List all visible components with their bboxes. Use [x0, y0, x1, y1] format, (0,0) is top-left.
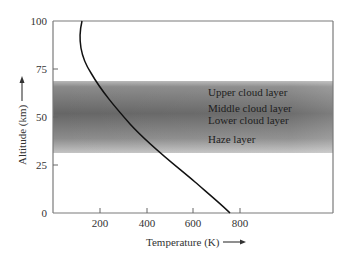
y-tick-label: 75 — [36, 63, 48, 75]
middle-cloud-layer-label: Middle cloud layer — [208, 102, 292, 114]
y-axis-label: Altitude (km) — [16, 104, 29, 165]
y-axis-title: Altitude (km) — [16, 76, 29, 165]
y-axis-tick-labels: 0 25 50 75 100 — [31, 15, 48, 219]
y-tick-label: 0 — [42, 207, 48, 219]
upper-cloud-layer-label: Upper cloud layer — [208, 86, 288, 98]
cloud-band — [53, 81, 333, 153]
haze-layer-label: Haze layer — [208, 133, 256, 145]
x-axis-ticks — [100, 208, 240, 213]
x-axis-tick-labels: 200 400 600 800 — [92, 217, 249, 229]
arrow-right-icon — [223, 240, 246, 245]
y-tick-label: 100 — [31, 15, 48, 27]
y-tick-label: 25 — [36, 159, 48, 171]
x-tick-label: 800 — [232, 217, 249, 229]
x-axis-label: Temperature (K) — [146, 236, 220, 249]
x-tick-label: 600 — [185, 217, 202, 229]
arrow-up-icon — [20, 76, 25, 101]
lower-cloud-layer-label: Lower cloud layer — [208, 114, 289, 126]
y-tick-label: 50 — [36, 111, 48, 123]
x-tick-label: 400 — [139, 217, 156, 229]
x-axis-title: Temperature (K) — [146, 236, 246, 249]
temperature-altitude-chart: 0 25 50 75 100 200 400 600 800 Upper clo… — [0, 0, 347, 258]
x-tick-label: 200 — [92, 217, 109, 229]
